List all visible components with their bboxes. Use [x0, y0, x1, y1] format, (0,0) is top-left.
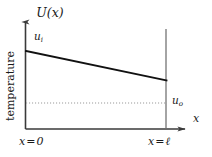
plot-canvas: [0, 0, 212, 157]
u-inner-subscript: i: [41, 35, 43, 44]
u-outer-subscript: o: [179, 99, 183, 108]
y-axis-label: temperature: [5, 51, 16, 121]
temperature-profile-figure: U(x) ui uo x temperature x=0 x=ℓ: [0, 0, 212, 157]
x-tick-right-operator: =: [154, 135, 165, 148]
label-u-outer: uo: [172, 95, 183, 106]
u-outer-base: u: [172, 94, 179, 106]
u-inner-base: u: [34, 30, 41, 42]
plot-title: U(x): [36, 7, 63, 20]
x-tick-left-operator: =: [25, 135, 36, 148]
x-tick-label-right: x=ℓ: [148, 136, 170, 147]
temperature-profile-line: [26, 51, 167, 81]
x-tick-right-value: ℓ: [165, 135, 170, 148]
label-u-inner: ui: [34, 31, 43, 42]
x-tick-left-value: 0: [36, 135, 43, 148]
x-tick-label-left: x=0: [19, 136, 43, 147]
x-axis-label: x: [193, 113, 199, 124]
